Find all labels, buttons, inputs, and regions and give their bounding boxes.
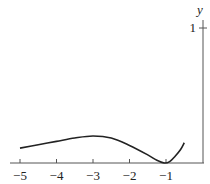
x-ticks [20, 159, 166, 163]
data-curve [20, 136, 184, 163]
chart-canvas: −5−4−3−2−1 1 y [0, 0, 210, 184]
x-tick-label: −1 [159, 168, 173, 183]
y-tick-label: 1 [190, 20, 197, 35]
x-tick-label: −2 [123, 168, 137, 183]
x-tick-label: −3 [86, 168, 100, 183]
x-tick-label: −5 [13, 168, 27, 183]
x-tick-label: −4 [50, 168, 64, 183]
y-axis-label: y [195, 2, 203, 17]
x-tick-labels: −5−4−3−2−1 [13, 168, 173, 183]
